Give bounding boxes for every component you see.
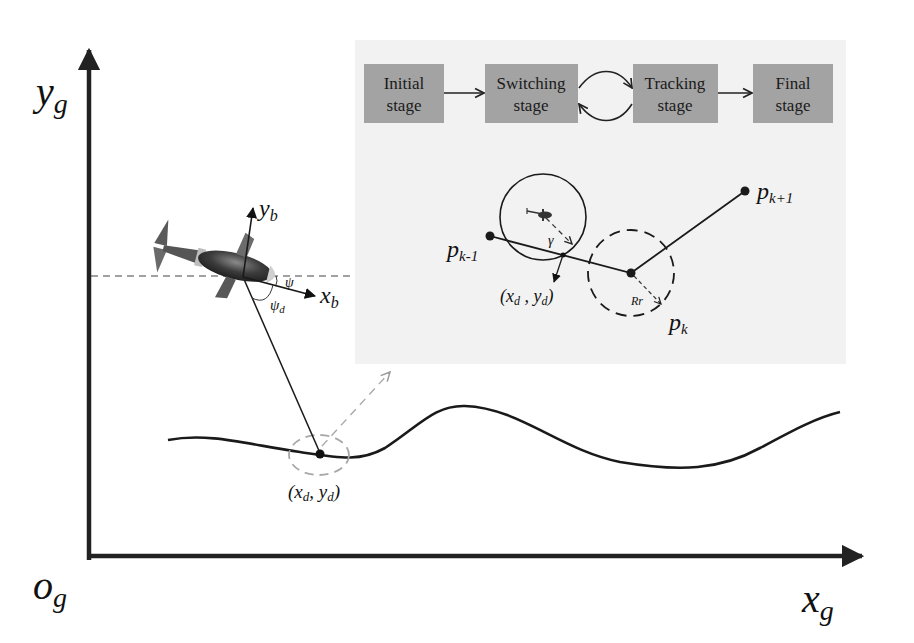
zoom-pointer-arrow <box>322 372 390 446</box>
xb-axis <box>243 277 315 296</box>
stage-box-switching: Switching stage <box>485 64 578 123</box>
stage-box-tracking: Tracking stage <box>633 64 718 123</box>
label-target-point: (xd, yd) <box>288 481 340 504</box>
stage-box-final: Final stage <box>753 64 833 123</box>
origin-label: og <box>33 563 67 613</box>
underwater-glider-icon <box>145 212 283 310</box>
gamma-label: γ <box>548 233 554 248</box>
desired-path-curve <box>168 406 840 468</box>
waypoint-prev <box>486 232 495 241</box>
psid-label: ψd <box>270 297 285 315</box>
yb-label: yb <box>257 195 278 224</box>
path-following-diagram: Initial stage Switching stage Tracking s… <box>0 0 914 643</box>
psi-arc <box>276 276 277 285</box>
stage-final-line1: Final <box>776 74 811 93</box>
x-axis-label: xg <box>801 576 834 626</box>
stage-initial-line2: stage <box>387 96 422 115</box>
inset-panel: Initial stage Switching stage Tracking s… <box>355 40 846 364</box>
y-axis-label: yg <box>32 69 68 119</box>
stage-final-line2: stage <box>776 96 811 115</box>
stage-tracking-line2: stage <box>658 96 693 115</box>
psi-label: ψ <box>285 275 294 290</box>
radius-label: Rr <box>630 294 643 308</box>
waypoint-next <box>741 187 750 196</box>
path-target-point <box>316 450 325 459</box>
stage-initial-line1: Initial <box>384 74 425 93</box>
stage-tracking-line1: Tracking <box>645 74 706 93</box>
xb-label: xb <box>319 282 339 311</box>
stage-switching-line1: Switching <box>497 74 566 93</box>
stage-box-initial: Initial stage <box>364 64 444 123</box>
stage-switching-line2: stage <box>514 96 549 115</box>
